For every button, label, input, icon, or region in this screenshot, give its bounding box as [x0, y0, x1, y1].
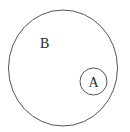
set-b-label: B — [40, 36, 49, 51]
set-b-circle — [9, 10, 118, 126]
venn-diagram: B A — [0, 0, 130, 132]
set-a-label: A — [89, 75, 100, 90]
